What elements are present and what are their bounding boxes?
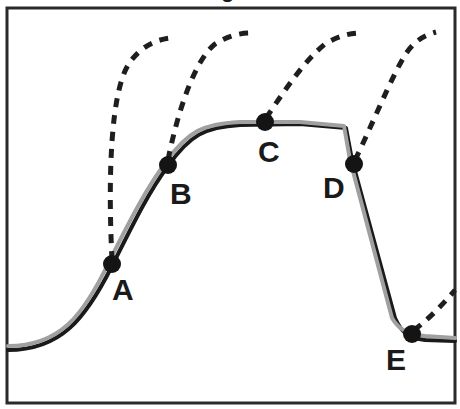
dashed-trajectory-c	[266, 33, 362, 118]
trajectory-diagram: g A B C D E	[0, 0, 460, 409]
point-c-marker	[256, 113, 274, 131]
dashed-trajectory-e	[414, 290, 455, 330]
title-fragment: g	[221, 0, 234, 2]
point-d-marker	[345, 155, 363, 173]
dashed-trajectories	[110, 32, 455, 330]
main-curve-light	[8, 122, 455, 346]
point-labels: A B C D E	[112, 135, 406, 376]
dashed-trajectory-a	[110, 38, 170, 260]
point-e-marker	[403, 325, 421, 343]
point-d-label: D	[323, 171, 345, 204]
point-c-label: C	[258, 135, 280, 168]
point-a-label: A	[112, 273, 134, 306]
point-b-marker	[159, 156, 177, 174]
point-e-label: E	[386, 343, 406, 376]
dashed-trajectory-d	[355, 32, 436, 160]
point-b-label: B	[170, 177, 192, 210]
point-a-marker	[103, 255, 121, 273]
dashed-trajectory-b	[168, 33, 250, 160]
